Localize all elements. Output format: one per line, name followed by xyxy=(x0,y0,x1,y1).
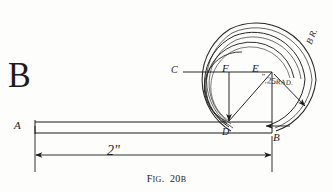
point-label-b: B xyxy=(273,131,280,143)
radius-rad-text: RAD. xyxy=(276,78,294,87)
radius-label: ".25RAD. xyxy=(261,72,294,87)
point-label-c: C xyxy=(171,64,178,75)
coil-turn-outer xyxy=(202,23,316,131)
radius-value: .25 xyxy=(264,75,276,86)
caption-ig: IG xyxy=(153,175,162,184)
point-label-d: D xyxy=(222,126,229,137)
point-label-f: F xyxy=(222,62,229,74)
engineering-figure-20b xyxy=(0,0,333,192)
point-label-e: E xyxy=(252,62,259,74)
strip xyxy=(35,120,272,134)
dimension-label: 2" xyxy=(107,143,120,159)
caption-suffix: B xyxy=(181,175,187,184)
panel-label-b: B xyxy=(8,54,31,95)
coil-spiral xyxy=(202,23,316,131)
point-label-a: A xyxy=(14,119,21,131)
figure-caption: FIG. 20B xyxy=(0,173,333,184)
caption-number: 20 xyxy=(170,173,181,184)
